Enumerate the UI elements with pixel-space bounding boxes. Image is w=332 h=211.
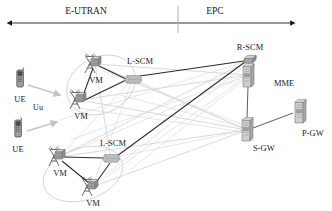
- server-rack-icon: [242, 118, 253, 141]
- node-vm-4[interactable]: VM: [82, 177, 100, 209]
- node-label-lscm-2: L-SCM: [100, 138, 126, 148]
- link-mme-sgw: [247, 86, 248, 118]
- antenna-tower-icon: [85, 54, 101, 74]
- node-label-vm-4: VM: [86, 198, 100, 208]
- switch-box-icon: [125, 76, 143, 84]
- node-ue-1[interactable]: UE: [14, 68, 25, 105]
- node-lscm-1[interactable]: L-SCM: [125, 56, 154, 83]
- node-layer: UE UE Uu VM VM VM VM: [12, 42, 323, 208]
- switch-box-icon: [103, 155, 121, 163]
- domain-label-eutran: E-UTRAN: [65, 6, 107, 16]
- antenna-tower-icon: [82, 177, 98, 197]
- node-rscm[interactable]: R-SCM: [237, 42, 264, 63]
- uu-arrow-layer: [27, 85, 60, 131]
- node-label-pgw: P-GW: [302, 128, 324, 138]
- node-pgw[interactable]: P-GW: [295, 100, 324, 138]
- link-vm1-lscm1: [99, 66, 126, 79]
- node-label-rscm: R-SCM: [237, 42, 264, 52]
- server-rack-icon: [295, 100, 306, 123]
- node-label-sgw: S-GW: [253, 143, 275, 153]
- interface-label-uu: Uu: [33, 103, 43, 112]
- node-label-vm-1: VM: [89, 75, 103, 85]
- cube-box-icon: [244, 55, 256, 63]
- link-vm3-lscm2: [64, 157, 104, 158]
- mobile-phone-icon: [15, 118, 22, 138]
- node-label-mme: MME: [274, 78, 294, 88]
- network-diagram: E-UTRAN EPC UE UE Uu VM VM: [0, 0, 332, 211]
- node-ue-2[interactable]: UE: [12, 118, 23, 155]
- diagram-canvas: E-UTRAN EPC UE UE Uu VM VM: [0, 0, 332, 211]
- node-label-ue-1: UE: [14, 94, 25, 104]
- uu-arrow-ue1: [28, 85, 60, 95]
- mobile-phone-icon: [17, 68, 24, 88]
- node-label-vm-3: VM: [53, 168, 67, 178]
- node-mme[interactable]: MME: [243, 64, 294, 88]
- node-lscm-2[interactable]: L-SCM: [100, 138, 126, 162]
- uu-arrow-ue2: [27, 122, 57, 131]
- node-label-lscm-1: L-SCM: [127, 56, 153, 66]
- node-label-vm-2: VM: [74, 111, 88, 121]
- link-sgw-pgw: [253, 113, 293, 128]
- node-label-ue-2: UE: [12, 144, 23, 154]
- domain-axis: E-UTRAN EPC: [12, 6, 292, 33]
- domain-label-epc: EPC: [206, 6, 223, 16]
- node-vm-1[interactable]: VM: [85, 54, 103, 86]
- node-vm-3[interactable]: VM: [49, 147, 67, 179]
- server-rack-icon: [243, 64, 254, 87]
- node-sgw[interactable]: S-GW: [242, 118, 275, 153]
